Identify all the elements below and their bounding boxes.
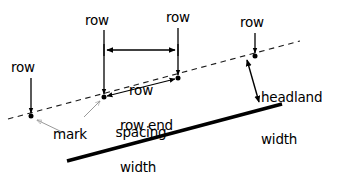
headland-width-dimension-arrow xyxy=(247,60,259,102)
row-label-right: row xyxy=(240,16,264,29)
mark-mid-right xyxy=(176,76,181,81)
mark-right xyxy=(253,54,258,59)
row-label-left: row xyxy=(11,61,35,74)
headland-width-label: headland width xyxy=(261,62,322,174)
mark-left xyxy=(29,114,34,119)
row-label-mid-left: row xyxy=(85,14,109,27)
mark-leader-line-secondary xyxy=(84,101,100,117)
headland-width-label-line1: headland xyxy=(261,90,322,104)
row-label-mid-right: row xyxy=(166,11,190,24)
mark-label: mark xyxy=(53,128,87,141)
headland-width-label-line2: width xyxy=(261,132,322,146)
row-end-width-label-line2: width xyxy=(120,160,173,174)
row-end-width-label: row end width xyxy=(120,90,173,176)
diagram-canvas: row row row row row spacing row end widt… xyxy=(0,0,339,176)
row-end-width-label-line1: row end xyxy=(120,118,173,132)
